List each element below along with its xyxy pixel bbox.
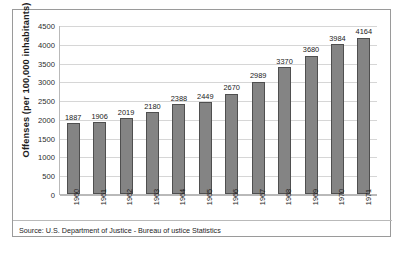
bar[interactable] bbox=[67, 123, 80, 194]
bar[interactable] bbox=[120, 118, 133, 194]
bar-series: 1887190620192180238824492670298933703680… bbox=[60, 26, 377, 194]
x-axis-tick-label: 1969 bbox=[311, 189, 320, 205]
bar-value-label: 2449 bbox=[197, 92, 213, 101]
x-tick-slot: 1961 bbox=[86, 196, 113, 220]
bar-slot: 2989 bbox=[245, 26, 271, 194]
bar-slot: 1906 bbox=[86, 26, 112, 194]
footer-divider bbox=[13, 220, 392, 221]
bar[interactable] bbox=[305, 56, 318, 194]
bar[interactable] bbox=[331, 44, 344, 194]
x-axis-tick-label: 1970 bbox=[337, 189, 346, 205]
x-axis-tick-label: 1963 bbox=[152, 189, 161, 205]
bar-slot: 3370 bbox=[271, 26, 297, 194]
y-axis-tick-label: 4000 bbox=[38, 40, 55, 49]
x-tick-slot: 1971 bbox=[351, 196, 378, 220]
x-tick-slot: 1969 bbox=[298, 196, 325, 220]
x-axis-tick-labels: 1960196119621963196419651966196719681969… bbox=[59, 196, 377, 220]
y-axis-tick-label: 500 bbox=[42, 172, 55, 181]
bar-value-label: 3370 bbox=[276, 57, 292, 66]
y-axis-tick-label: 3000 bbox=[38, 78, 55, 87]
x-tick-slot: 1968 bbox=[271, 196, 298, 220]
y-axis-tick-label: 3500 bbox=[38, 59, 55, 68]
bar[interactable] bbox=[199, 102, 212, 194]
bar-value-label: 1906 bbox=[91, 112, 107, 121]
x-tick-slot: 1960 bbox=[59, 196, 86, 220]
bar-value-label: 3680 bbox=[303, 45, 319, 54]
x-tick-slot: 1965 bbox=[192, 196, 219, 220]
bar[interactable] bbox=[172, 104, 185, 194]
bar-slot: 2670 bbox=[219, 26, 245, 194]
y-axis-tick-label: 4500 bbox=[38, 22, 55, 31]
bar[interactable] bbox=[357, 38, 370, 194]
bar-slot: 2449 bbox=[192, 26, 218, 194]
chart-frame: Offenses (per 100,000 inhabitants) 45004… bbox=[12, 9, 391, 237]
plot-area: 450040003500300025002000150010005000 188… bbox=[59, 26, 377, 195]
bar-value-label: 2388 bbox=[171, 94, 187, 103]
x-axis-tick-label: 1964 bbox=[178, 189, 187, 205]
x-axis-tick-label: 1965 bbox=[205, 189, 214, 205]
bar-slot: 2388 bbox=[166, 26, 192, 194]
bar-value-label: 4164 bbox=[356, 27, 372, 36]
bar[interactable] bbox=[93, 122, 106, 194]
y-axis-tick-label: 1000 bbox=[38, 153, 55, 162]
x-tick-slot: 1967 bbox=[245, 196, 272, 220]
y-axis-tick-label: 2500 bbox=[38, 97, 55, 106]
y-axis-tick-label: 2000 bbox=[38, 115, 55, 124]
x-tick-slot: 1962 bbox=[112, 196, 139, 220]
y-axis-tick-label: 0 bbox=[51, 191, 55, 200]
bar-value-label: 2670 bbox=[224, 83, 240, 92]
x-tick-slot: 1970 bbox=[324, 196, 351, 220]
chart-area: Offenses (per 100,000 inhabitants) 45004… bbox=[13, 10, 392, 220]
bar[interactable] bbox=[252, 82, 265, 194]
x-axis-tick-label: 1968 bbox=[284, 189, 293, 205]
bar[interactable] bbox=[278, 67, 291, 194]
x-axis-tick-label: 1967 bbox=[258, 189, 267, 205]
x-axis-tick-label: 1961 bbox=[99, 189, 108, 205]
x-tick-slot: 1963 bbox=[139, 196, 166, 220]
x-tick-slot: 1964 bbox=[165, 196, 192, 220]
bar-slot: 2180 bbox=[139, 26, 165, 194]
bar-value-label: 1887 bbox=[65, 113, 81, 122]
bar-value-label: 2180 bbox=[144, 102, 160, 111]
bar-value-label: 3984 bbox=[329, 34, 345, 43]
bar-slot: 4164 bbox=[351, 26, 377, 194]
x-axis-tick-label: 1962 bbox=[125, 189, 134, 205]
source-note: Source: U.S. Department of Justice - Bur… bbox=[19, 223, 379, 237]
bar[interactable] bbox=[146, 112, 159, 194]
x-tick-slot: 1966 bbox=[218, 196, 245, 220]
bar-slot: 1887 bbox=[60, 26, 86, 194]
bar-value-label: 2989 bbox=[250, 71, 266, 80]
y-axis-title: Offenses (per 100,000 inhabitants) bbox=[21, 0, 37, 166]
bar-slot: 3984 bbox=[324, 26, 350, 194]
x-axis-tick-label: 1966 bbox=[231, 189, 240, 205]
x-axis-tick-label: 1960 bbox=[72, 189, 81, 205]
y-axis-tick-label: 1500 bbox=[38, 134, 55, 143]
bar-slot: 2019 bbox=[113, 26, 139, 194]
bar-slot: 3680 bbox=[298, 26, 324, 194]
x-axis-tick-label: 1971 bbox=[364, 189, 373, 205]
bar-value-label: 2019 bbox=[118, 108, 134, 117]
bar[interactable] bbox=[225, 94, 238, 194]
